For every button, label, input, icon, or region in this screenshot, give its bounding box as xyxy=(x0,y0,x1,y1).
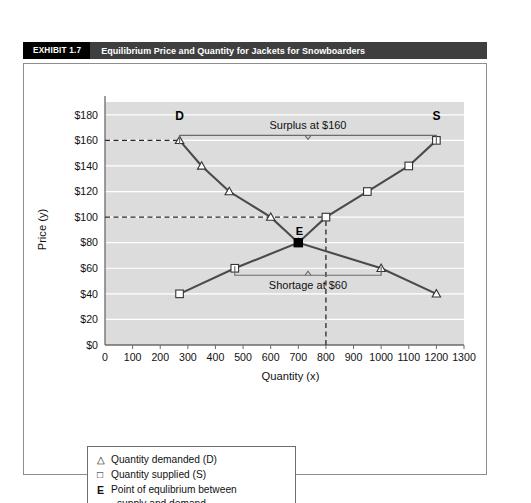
x-tick-label: 0 xyxy=(102,351,108,363)
legend-label-demand: Quantity demanded (D) xyxy=(111,453,287,467)
data-point-supply xyxy=(176,290,184,298)
x-tick-label: 800 xyxy=(317,351,335,363)
plot-area: $0$20$40$60$80$100$120$140$160$180010020… xyxy=(24,64,488,476)
x-tick-label: 600 xyxy=(262,351,280,363)
plot-background xyxy=(105,102,464,345)
x-tick-label: 500 xyxy=(234,351,252,363)
data-point-supply xyxy=(405,162,413,170)
legend-label-equilibrium-line2: supply and demand xyxy=(111,497,287,503)
x-tick-label: 1000 xyxy=(369,351,393,363)
x-tick-label: 700 xyxy=(289,351,307,363)
y-tick-label: $20 xyxy=(80,313,98,325)
y-tick-label: $180 xyxy=(74,109,98,121)
x-tick-label: 900 xyxy=(345,351,363,363)
supply-demand-chart: $0$20$40$60$80$100$120$140$160$180010020… xyxy=(24,64,488,476)
chart-legend: △ Quantity demanded (D) □ Quantity suppl… xyxy=(87,446,296,503)
equilibrium-point xyxy=(294,238,302,246)
annotation-label: Shortage at $60 xyxy=(269,279,347,291)
x-tick-label: 200 xyxy=(151,351,169,363)
triangle-marker-icon: △ xyxy=(97,453,111,467)
y-tick-label: $120 xyxy=(74,185,98,197)
x-tick-label: 400 xyxy=(207,351,225,363)
x-tick-label: 1200 xyxy=(425,351,449,363)
x-tick-label: 100 xyxy=(124,351,142,363)
y-tick-label: $0 xyxy=(86,339,98,351)
equilibrium-marker-icon: E xyxy=(97,483,111,497)
y-tick-label: $40 xyxy=(80,288,98,300)
data-point-supply xyxy=(322,213,330,221)
curve-label-s: S xyxy=(432,109,440,123)
legend-item-equilibrium: E Point of equlibrium between supply and… xyxy=(97,483,287,503)
legend-label-equilibrium: Point of equlibrium between supply and d… xyxy=(111,483,287,503)
x-tick-label: 1300 xyxy=(452,351,476,363)
equilibrium-point-label: E xyxy=(296,225,303,237)
chart-frame: $0$20$40$60$80$100$120$140$160$180010020… xyxy=(23,63,487,475)
x-tick-label: 300 xyxy=(179,351,197,363)
y-axis-title: Price (y) xyxy=(36,208,48,250)
square-marker-icon: □ xyxy=(97,468,111,482)
y-tick-label: $140 xyxy=(74,160,98,172)
y-tick-label: $100 xyxy=(74,211,98,223)
exhibit-title: Equilibrium Price and Quantity for Jacke… xyxy=(90,42,365,59)
exhibit-number-tag: EXHIBIT 1.7 xyxy=(23,42,90,59)
exhibit-page: EXHIBIT 1.7 Equilibrium Price and Quanti… xyxy=(0,0,531,503)
y-tick-label: $160 xyxy=(74,134,98,146)
x-tick-label: 1100 xyxy=(397,351,420,363)
exhibit-header-bar: EXHIBIT 1.7 Equilibrium Price and Quanti… xyxy=(23,42,487,59)
legend-item-supply: □ Quantity supplied (S) xyxy=(97,468,287,482)
legend-item-demand: △ Quantity demanded (D) xyxy=(97,453,287,467)
data-point-supply xyxy=(364,188,372,196)
annotation-label: Surplus at $160 xyxy=(269,119,346,131)
x-axis-title: Quantity (x) xyxy=(262,370,320,382)
curve-label-d: D xyxy=(175,109,184,123)
legend-label-supply: Quantity supplied (S) xyxy=(111,468,287,482)
y-tick-label: $60 xyxy=(80,262,98,274)
legend-label-equilibrium-line1: Point of equlibrium between xyxy=(111,484,237,495)
y-tick-label: $80 xyxy=(80,236,98,248)
